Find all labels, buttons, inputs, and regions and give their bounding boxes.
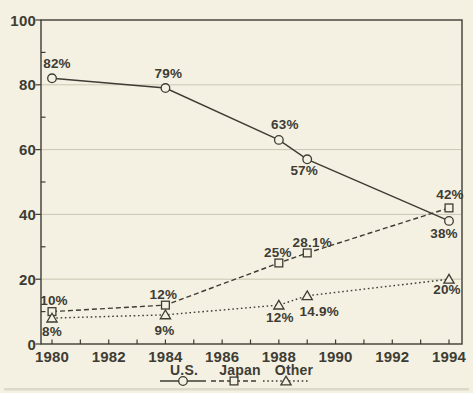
chart-figure: 0204060801001980198219841986198819901992… <box>0 0 473 393</box>
data-point-label: 82% <box>43 56 71 71</box>
data-point-label: 12% <box>150 287 178 302</box>
data-point-label: 20% <box>433 282 461 297</box>
circle-marker <box>161 84 170 93</box>
y-axis-tick-label: 80 <box>19 76 36 93</box>
data-point-label: 12% <box>266 310 294 325</box>
data-point-label: 63% <box>271 117 299 132</box>
legend-label-other: Other <box>275 362 314 378</box>
line-chart: 0204060801001980198219841986198819901992… <box>0 0 473 393</box>
x-axis-tick-label: 1980 <box>35 348 69 365</box>
circle-marker <box>179 377 188 386</box>
scan-shadow-line <box>4 388 469 390</box>
data-point-label: 79% <box>155 66 183 81</box>
square-marker <box>230 377 238 385</box>
data-point-label: 9% <box>154 323 174 338</box>
circle-marker <box>48 74 57 83</box>
x-axis-tick-label: 1990 <box>318 348 352 365</box>
chart-plot-area: 0204060801001980198219841986198819901992… <box>0 0 473 393</box>
circle-marker <box>445 217 454 226</box>
circle-marker <box>275 136 284 145</box>
square-marker <box>162 301 170 309</box>
data-point-label: 38% <box>430 226 458 241</box>
y-axis-tick-label: 40 <box>19 206 36 223</box>
y-axis-tick-label: 20 <box>19 271 36 288</box>
x-axis-tick-label: 1992 <box>375 348 409 365</box>
data-point-label: 28.1% <box>293 235 332 250</box>
square-marker <box>275 259 283 267</box>
square-marker <box>303 249 311 257</box>
x-axis-tick-label: 1994 <box>432 348 467 365</box>
square-marker <box>445 204 453 212</box>
x-axis-tick-label: 1982 <box>92 348 126 365</box>
data-point-label: 42% <box>436 187 464 202</box>
data-point-label: 14.9% <box>300 304 339 319</box>
legend-label-japan: Japan <box>219 362 260 378</box>
data-point-label: 8% <box>42 324 62 339</box>
y-axis-tick-label: 100 <box>10 12 36 29</box>
y-axis-tick-label: 60 <box>19 141 36 158</box>
figure-background <box>0 0 473 393</box>
legend-samples <box>160 376 309 385</box>
data-point-label: 57% <box>290 163 318 178</box>
legend-label-us: U.S. <box>170 362 198 378</box>
data-point-label: 25% <box>264 245 292 260</box>
data-point-label: 10% <box>40 293 68 308</box>
